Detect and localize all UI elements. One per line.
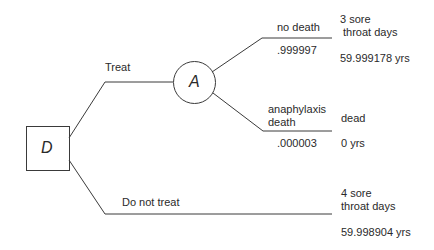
anaphylaxis-probability: .000003	[277, 137, 317, 150]
no-death-label: no death	[277, 21, 320, 34]
anaphylaxis-label-line2: death	[268, 116, 296, 129]
decision-node-label: D	[41, 139, 53, 157]
treat-label: Treat	[105, 61, 130, 74]
outcome-no-death-line1: 3 sore	[340, 13, 371, 26]
outcome-no-death-line2: throat days	[343, 26, 397, 39]
chance-node-label: A	[189, 73, 200, 91]
no-death-probability: .999997	[277, 44, 317, 57]
do-not-treat-label: Do not treat	[122, 196, 179, 209]
outcome-no-death-value: 59.999178 yrs	[340, 52, 410, 65]
anaphylaxis-label-line1: anaphylaxis	[268, 103, 326, 116]
do-not-treat-branch-line	[69, 160, 332, 214]
outcome-anaphylaxis-value: 0 yrs	[341, 137, 365, 150]
outcome-do-not-treat-value: 59.998904 yrs	[341, 226, 411, 239]
outcome-do-not-treat-line2: throat days	[341, 200, 395, 213]
treat-branch-line	[69, 82, 173, 138]
outcome-do-not-treat-line1: 4 sore	[341, 187, 372, 200]
outcome-anaphylaxis-line1: dead	[341, 112, 365, 125]
